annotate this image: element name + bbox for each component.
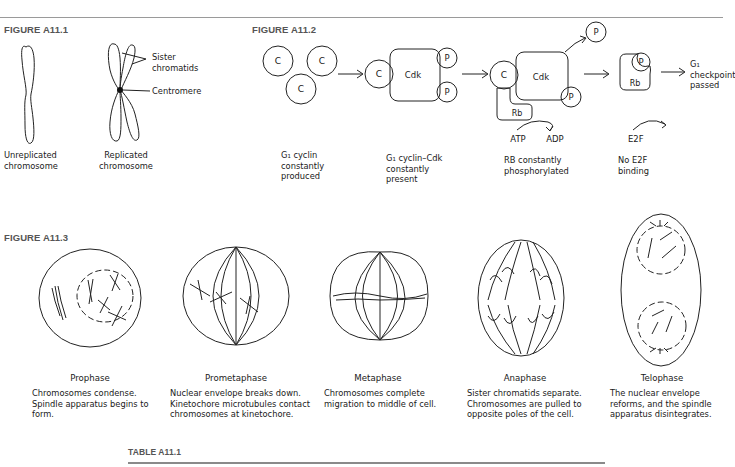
prometaphase-cell	[183, 247, 289, 345]
metaphase-cell	[330, 252, 428, 340]
phase-description-prometaphase: Nuclear envelope breaks down. Kinetochor…	[170, 388, 310, 420]
anaphase-cell	[478, 240, 564, 356]
table-a11-1-label: TABLE A11.1	[128, 447, 181, 457]
phase-name-telophase: Telophase	[622, 373, 702, 383]
phase-description-prophase: Chromosomes condense. Spindle apparatus …	[32, 388, 149, 420]
table-top-rule	[128, 462, 605, 464]
phase-name-prophase: Prophase	[50, 373, 130, 383]
prophase-cell	[39, 249, 141, 347]
phase-description-metaphase: Chromosomes complete migration to middle…	[324, 388, 436, 409]
telophase-cell	[621, 214, 701, 366]
phase-name-anaphase: Anaphase	[485, 373, 565, 383]
phase-description-anaphase: Sister chromatids separate. Chromosomes …	[467, 388, 582, 420]
phase-description-telophase: The nuclear envelope reforms, and the sp…	[610, 388, 712, 420]
phase-name-metaphase: Metaphase	[338, 373, 418, 383]
phase-name-prometaphase: Prometaphase	[196, 373, 276, 383]
